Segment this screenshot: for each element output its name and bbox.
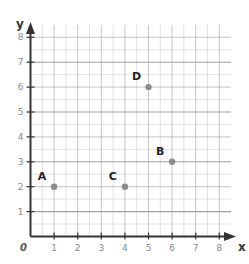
x-tick-label: 2 (75, 243, 81, 253)
data-point-a (51, 184, 57, 190)
origin-label: 0 (20, 242, 27, 253)
point-label-b: B (156, 145, 164, 158)
point-label-c: C (109, 170, 117, 183)
data-points: ABCD (38, 70, 175, 190)
coordinate-plane: 1234567812345678 x y 0 ABCD (0, 0, 249, 264)
x-tick-label: 6 (169, 243, 175, 253)
x-tick-label: 5 (146, 243, 152, 253)
x-axis-label: x (238, 240, 246, 254)
point-label-d: D (132, 70, 141, 83)
y-tick-label: 6 (18, 82, 24, 92)
data-point-d (145, 84, 151, 90)
y-tick-label: 7 (18, 57, 24, 67)
x-tick-label: 7 (193, 243, 199, 253)
point-label-a: A (38, 170, 47, 183)
ticks (27, 37, 220, 239)
y-tick-label: 5 (18, 107, 24, 117)
major-grid (31, 25, 232, 237)
x-tick-label: 1 (51, 243, 57, 253)
data-point-b (169, 159, 175, 165)
y-tick-label: 3 (18, 157, 24, 167)
data-point-c (122, 184, 128, 190)
minor-grid (31, 25, 232, 237)
x-tick-label: 4 (122, 243, 128, 253)
y-tick-label: 2 (18, 182, 24, 192)
y-axis-arrow-icon (26, 22, 35, 34)
y-tick-label: 8 (18, 32, 24, 42)
x-tick-label: 3 (98, 243, 104, 253)
y-axis-label: y (16, 17, 24, 31)
x-axis-arrow-icon (224, 232, 236, 241)
y-tick-label: 4 (18, 132, 24, 142)
axes (26, 22, 236, 241)
x-tick-label: 8 (216, 243, 222, 253)
tick-labels: 1234567812345678 (18, 32, 223, 252)
y-tick-label: 1 (18, 207, 24, 217)
